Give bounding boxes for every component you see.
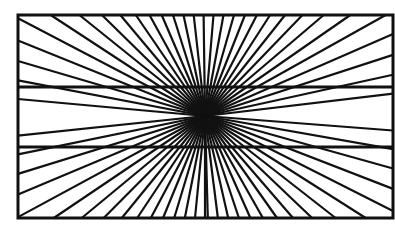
radiating-rays: [18, 15, 393, 218]
ray-line: [205, 15, 324, 116]
ray-line: [82, 116, 205, 218]
hering-illusion-figure: [0, 0, 395, 232]
ray-line: [204, 15, 205, 116]
ray-line: [205, 116, 366, 218]
illusion-canvas: [0, 0, 395, 232]
ray-line: [18, 116, 205, 136]
ray-line: [120, 15, 205, 116]
ray-line: [205, 116, 293, 218]
